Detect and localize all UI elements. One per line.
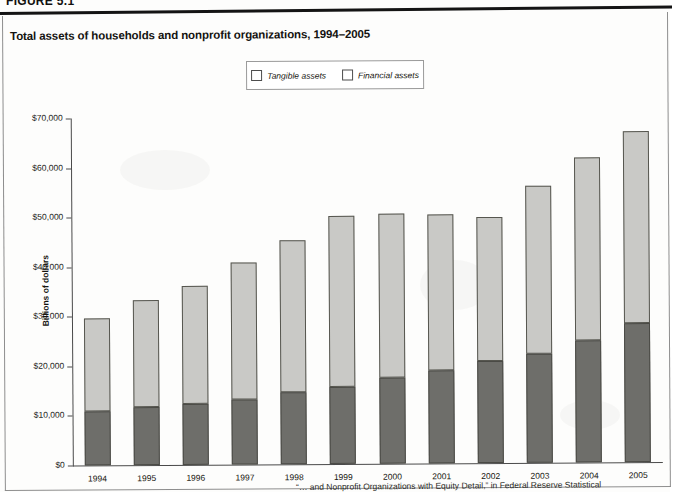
bar-2000[interactable]	[378, 214, 406, 464]
y-axis-line	[71, 119, 74, 467]
y-tick-label: $10,000	[7, 410, 65, 420]
x-tick-label-1997: 1997	[223, 472, 267, 482]
bar-2001[interactable]	[427, 214, 455, 463]
y-tick-label: $60,000	[5, 162, 63, 172]
y-tick-label: $70,000	[5, 113, 63, 123]
plot-area: Billions of dollars $0$10,000$20,000$30,…	[0, 0, 673, 492]
x-tick-label-1998: 1998	[272, 472, 316, 482]
bar-segment-tangible[interactable]	[624, 323, 651, 462]
y-tick-mark	[67, 317, 72, 318]
bar-segment-financial[interactable]	[84, 318, 111, 411]
x-tick-label-2005: 2005	[616, 470, 660, 480]
bar-segment-tangible[interactable]	[575, 340, 602, 463]
bar-1994[interactable]	[84, 318, 111, 465]
bar-segment-financial[interactable]	[476, 217, 503, 362]
bar-segment-tangible[interactable]	[182, 404, 208, 465]
x-tick-label-1995: 1995	[125, 473, 169, 483]
bar-segment-financial[interactable]	[280, 240, 307, 392]
y-tick-label: $40,000	[6, 261, 64, 271]
bar-segment-tangible[interactable]	[281, 392, 307, 464]
x-tick-label-1996: 1996	[174, 473, 218, 483]
source-note-text: “… and Nonprofit Organizations with Equi…	[296, 479, 601, 492]
y-tick-mark	[66, 218, 71, 219]
bar-segment-financial[interactable]	[378, 214, 405, 378]
y-tick-label: $50,000	[5, 212, 63, 222]
y-tick-label: $20,000	[6, 360, 64, 370]
bar-segment-financial[interactable]	[329, 216, 356, 387]
bar-segment-tangible[interactable]	[379, 377, 406, 463]
bar-2004[interactable]	[574, 157, 602, 462]
bar-segment-financial[interactable]	[574, 157, 601, 340]
y-tick-label: $0	[7, 460, 65, 470]
bar-segment-tangible[interactable]	[133, 407, 159, 465]
bar-2002[interactable]	[476, 217, 504, 464]
bar-1996[interactable]	[182, 286, 209, 465]
bar-1997[interactable]	[231, 263, 258, 465]
y-tick-mark	[68, 466, 73, 467]
x-tick-label-1994: 1994	[75, 473, 119, 483]
bar-segment-tangible[interactable]	[526, 354, 553, 463]
bar-segment-financial[interactable]	[525, 186, 552, 354]
bar-segment-financial[interactable]	[182, 286, 209, 404]
y-tick-mark	[66, 119, 71, 120]
bar-1995[interactable]	[133, 300, 160, 465]
bar-segment-tangible[interactable]	[477, 361, 504, 463]
bar-segment-tangible[interactable]	[428, 371, 455, 464]
bar-1998[interactable]	[280, 240, 307, 464]
source-note: “… and Nonprofit Organizations with Equi…	[296, 479, 601, 492]
y-tick-label: $30,000	[6, 311, 64, 321]
bar-1999[interactable]	[329, 216, 357, 464]
bar-segment-tangible[interactable]	[232, 399, 258, 465]
x-axis-line	[73, 462, 663, 467]
y-tick-mark	[68, 416, 73, 417]
y-tick-mark	[67, 267, 72, 268]
bar-2005[interactable]	[623, 131, 651, 462]
y-tick-mark	[67, 366, 72, 367]
bar-segment-financial[interactable]	[427, 214, 454, 370]
bar-segment-tangible[interactable]	[84, 411, 110, 465]
bar-segment-financial[interactable]	[623, 131, 650, 323]
bar-2003[interactable]	[525, 186, 553, 463]
bar-segment-financial[interactable]	[231, 263, 258, 399]
bar-segment-tangible[interactable]	[330, 386, 356, 463]
bar-segment-financial[interactable]	[133, 300, 160, 407]
y-tick-mark	[66, 168, 71, 169]
